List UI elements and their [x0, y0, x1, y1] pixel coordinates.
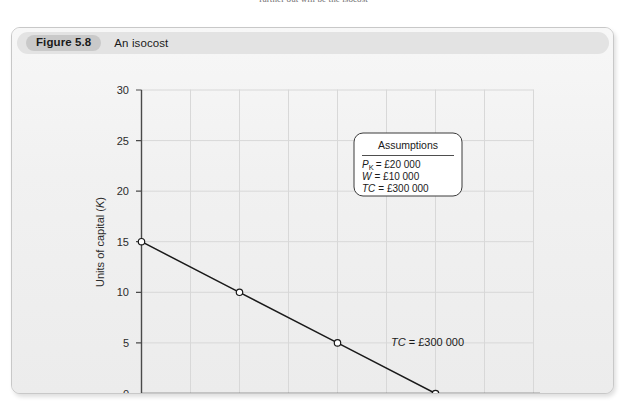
- page-running-text: further out will be the isocost: [0, 0, 627, 3]
- isocost-line-label: TC = £300 000: [391, 336, 464, 348]
- y-tick-label: 5: [123, 337, 129, 349]
- y-tick-label: 10: [117, 286, 129, 298]
- assumptions-row-rest: = £10 000: [374, 171, 419, 182]
- figure-title: An isocost: [114, 37, 168, 49]
- assumptions-box: Assumptions PK= £20 000 W= £10 000 TC= £…: [354, 133, 462, 196]
- y-tick-label: 30: [117, 84, 129, 96]
- figure-number-badge: Figure 5.8: [26, 35, 101, 52]
- data-point: [138, 239, 144, 245]
- figure-panel: Figure 5.8 An isocost: [11, 27, 614, 394]
- assumptions-row-rest: = £20 000: [376, 159, 421, 170]
- y-tick-labels: 0 5 10 15 20 25 30: [117, 84, 129, 393]
- y-tick-label: 0: [123, 388, 129, 394]
- assumptions-row: TC= £300 000: [362, 183, 429, 194]
- assumptions-row-rest: = £300 000: [378, 183, 429, 194]
- chart-plot-area: 0 5 10 15 20 25 30 35 40 0 5 10 15 20: [12, 54, 613, 393]
- assumptions-row: W= £10 000: [362, 171, 420, 182]
- assumptions-heading: Assumptions: [378, 139, 438, 151]
- y-tick-label: 25: [117, 135, 129, 147]
- y-tick-label: 15: [117, 236, 129, 248]
- isocost-label-var: TC: [391, 336, 406, 348]
- assumptions-row-var: TC: [362, 183, 376, 194]
- isocost-label-rest: = £300 000: [406, 336, 464, 348]
- figure-screenshot: further out will be the isocost Figure 5…: [0, 0, 627, 420]
- isocost-chart-svg: 0 5 10 15 20 25 30 35 40 0 5 10 15 20: [12, 54, 613, 393]
- figure-caption-bar: Figure 5.8 An isocost: [17, 32, 609, 54]
- y-axis-title: Units of capital (K): [94, 197, 106, 287]
- assumptions-row-var: W: [362, 171, 373, 182]
- data-point: [432, 390, 438, 393]
- y-axis-title-tail: ): [94, 197, 106, 201]
- y-tick-label: 20: [117, 185, 129, 197]
- data-point: [236, 289, 242, 295]
- data-point: [334, 340, 340, 346]
- y-axis-title-text: Units of capital (: [94, 208, 106, 287]
- grid-lines: [142, 90, 534, 394]
